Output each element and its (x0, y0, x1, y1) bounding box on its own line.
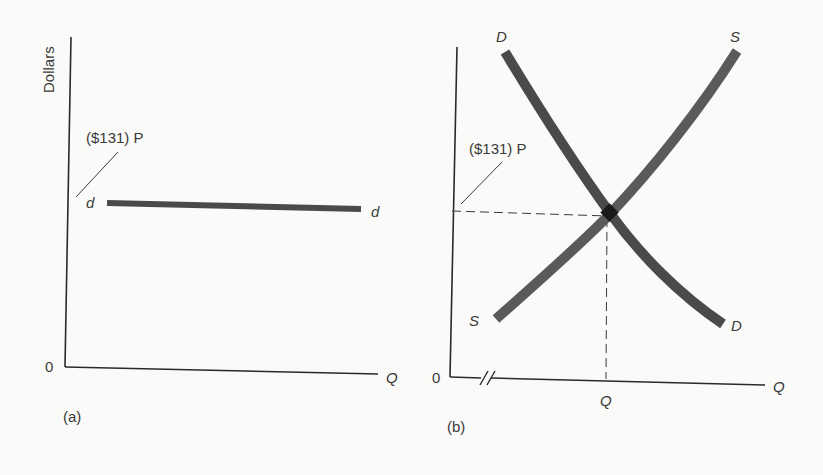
panel-b-y-axis (450, 47, 457, 377)
panel-a-price-label: ($131) P (86, 129, 144, 146)
panel-a-x-axis (65, 367, 378, 374)
panel-a-origin: 0 (45, 358, 53, 375)
panel-a-caption: (a) (63, 408, 81, 425)
panel-b-caption: (b) (447, 418, 465, 435)
panel-b-price-dashed (452, 211, 608, 216)
panel-a-d-left: d (86, 194, 95, 211)
panel-b-equilibrium-q: Q (600, 392, 612, 409)
panel-a-demand-line (107, 203, 361, 209)
panel-a-x-label: Q (386, 369, 398, 386)
panel-b-supply-top: S (730, 28, 740, 45)
panel-a-d-right: d (371, 203, 380, 220)
chart-canvas: Dollars ($131) P d d 0 Q (a) ($131) P D … (0, 0, 823, 475)
panel-b-origin: 0 (432, 369, 440, 386)
panel-b-x-label: Q (773, 378, 785, 395)
panel-b-price-leader (461, 162, 502, 204)
panel-b-price-label: ($131) P (469, 140, 527, 157)
panel-b-supply-bottom: S (469, 312, 479, 329)
panel-b-quantity-dashed (606, 218, 607, 379)
panel-a-price-leader (76, 152, 118, 197)
panel-b-demand-top: D (496, 28, 507, 45)
panel-b-demand-bottom: D (731, 317, 742, 334)
panel-a-y-axis (65, 37, 71, 367)
panel-a-y-label: Dollars (40, 46, 57, 93)
panel-a: Dollars ($131) P d d 0 Q (a) (40, 37, 398, 425)
panel-b: ($131) P D S S D 0 Q Q (b) (432, 28, 785, 435)
axis-break-icon (480, 371, 488, 385)
panel-b-x-axis-segment-2 (491, 378, 765, 385)
panel-b-x-axis-segment-1 (450, 377, 481, 378)
